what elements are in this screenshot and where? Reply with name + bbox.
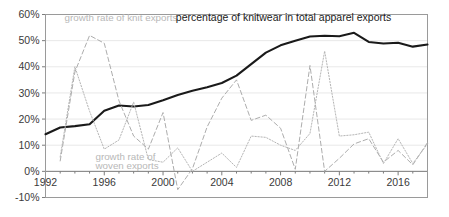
line-chart: -10%0%10%20%30%40%50%60% 199219962000200… <box>0 0 449 217</box>
x-axis-tick-label: 2008 <box>269 176 293 188</box>
x-axis-tick-label: 2000 <box>151 176 175 188</box>
y-axis-tick-label: 50% <box>18 34 39 46</box>
y-axis-tick-label: 40% <box>18 60 39 72</box>
chart-title: percentage of knitwear in total apparel … <box>176 11 391 23</box>
y-axis-tick-label: 30% <box>18 87 39 99</box>
x-axis-tick-label: 2016 <box>386 176 410 188</box>
y-axis-tick-label: 20% <box>18 113 39 125</box>
chart-container: -10%0%10%20%30%40%50%60% 199219962000200… <box>0 0 449 217</box>
knit-annotation: growth rate of knit exports <box>65 12 178 23</box>
x-axis-tick-label: 2004 <box>210 176 234 188</box>
y-axis-tick-label: 60% <box>18 8 39 20</box>
x-axis-tick-label: 1992 <box>34 176 58 188</box>
x-axis-tick-label: 1996 <box>93 176 117 188</box>
x-axis-tick-label: 2012 <box>328 176 352 188</box>
y-axis-tick-label: -10% <box>15 191 40 203</box>
y-axis-tick-label: 10% <box>18 139 39 151</box>
woven-annotation-line2: woven exports <box>94 160 158 171</box>
y-axis-tick-label: 0% <box>24 165 39 177</box>
